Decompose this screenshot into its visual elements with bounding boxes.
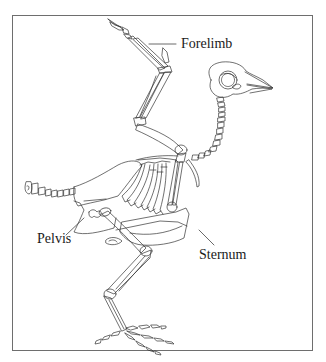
knee-region [106,237,122,244]
wing-manus [108,19,172,73]
tibiotarsus [104,250,151,299]
skull [209,62,273,98]
foot-toes [95,325,174,355]
pelvis [74,161,187,234]
tarsometatarsus [104,296,127,331]
sternum-leader-line [199,230,214,245]
label-sternum: Sternum [199,248,246,262]
leader-lines [66,44,214,245]
ribs [122,158,176,214]
tail-vertebrae [25,182,75,197]
wing-forearm [136,72,171,119]
bird-skeleton-illustration [0,0,326,362]
wing-humerus [134,117,187,155]
sternum [120,208,189,245]
label-forelimb: Forelimb [181,37,232,51]
neck-vertebrae [192,97,225,160]
label-pelvis: Pelvis [37,232,71,246]
femur [98,207,152,256]
